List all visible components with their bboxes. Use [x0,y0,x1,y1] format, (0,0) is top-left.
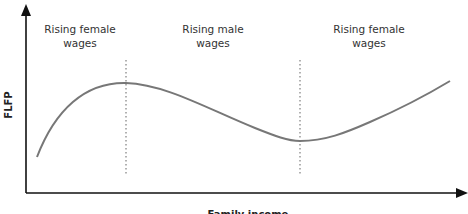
flfp-curve [37,81,450,157]
region-label-right-line2: wages [352,37,386,49]
region-label-middle-line2: wages [196,37,230,49]
flfp-diagram: Rising female wages Rising male wages Ri… [0,0,468,214]
region-label-left-line1: Rising female [44,23,115,35]
y-axis-label: FLFP [3,91,14,118]
region-label-middle-line1: Rising male [182,23,243,35]
region-label-right-line1: Rising female [333,23,404,35]
region-label-left-line2: wages [63,37,97,49]
x-axis-arrow-icon [456,188,468,198]
x-axis-label: Family income [208,209,289,214]
y-axis-arrow-icon [21,4,31,16]
